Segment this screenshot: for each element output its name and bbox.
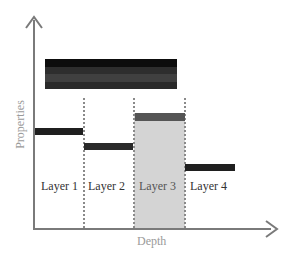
layer-2-property-bar xyxy=(84,143,133,150)
layer-3-label: Layer 3 xyxy=(139,179,176,194)
layer-2-label: Layer 2 xyxy=(88,179,125,194)
x-axis-label: Depth xyxy=(137,234,166,249)
x-axis xyxy=(33,228,271,230)
layer-3-shade xyxy=(134,113,185,228)
top-band xyxy=(45,59,177,89)
y-axis xyxy=(33,20,35,229)
layer-4-property-bar xyxy=(185,164,235,171)
layer-4-label: Layer 4 xyxy=(190,179,227,194)
layer-divider xyxy=(83,98,85,228)
y-axis-arrow-icon xyxy=(24,14,46,30)
x-axis-arrow-icon xyxy=(264,219,280,241)
layer-1-label: Layer 1 xyxy=(41,179,78,194)
layer-3-property-bar xyxy=(135,113,185,121)
layer-1-property-bar xyxy=(35,128,83,135)
y-axis-label: Properties xyxy=(13,85,28,165)
